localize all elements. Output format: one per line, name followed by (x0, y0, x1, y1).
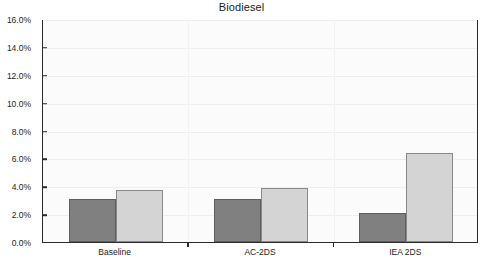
y-axis-tick-mark (42, 75, 47, 77)
bar-iea-2ds-2030 (406, 153, 453, 242)
x-axis-category-label: Baseline (98, 247, 131, 258)
category-separator (188, 20, 189, 242)
y-axis: 0.0%2.0%4.0%6.0%8.0%10.0%12.0%14.0%16.0% (0, 0, 38, 266)
category-separator (334, 20, 335, 242)
bar-chart: Biodiesel 2015 2030 0.0%2.0%4.0%6.0%8.0%… (0, 0, 483, 266)
y-axis-tick-label: 0.0% (12, 238, 31, 248)
plot-area (42, 20, 478, 243)
gridline (43, 20, 477, 21)
y-axis-tick-label: 2.0% (12, 210, 31, 220)
x-axis-category-label: IEA 2DS (389, 247, 421, 258)
gridline (43, 76, 477, 77)
y-axis-tick-label: 14.0% (7, 43, 31, 53)
y-axis-tick-mark (42, 103, 47, 105)
x-axis: BaselineAC-2DSIEA 2DS (42, 247, 478, 263)
y-axis-tick-label: 6.0% (12, 154, 31, 164)
y-axis-tick-mark (42, 159, 47, 161)
bar-ac-2ds-2015 (214, 199, 261, 242)
chart-title: Biodiesel (0, 1, 483, 14)
gridline (43, 104, 477, 105)
bar-ac-2ds-2030 (261, 188, 308, 242)
bar-baseline-2015 (69, 199, 116, 242)
y-axis-tick-mark (42, 131, 47, 133)
y-axis-tick-mark (42, 47, 47, 49)
y-axis-tick-label: 10.0% (7, 99, 31, 109)
x-axis-category-label: AC-2DS (244, 247, 275, 258)
y-axis-tick-mark (42, 186, 47, 188)
x-axis-tick-mark (333, 243, 334, 247)
y-axis-tick-label: 8.0% (12, 127, 31, 137)
y-axis-tick-mark (42, 214, 47, 216)
gridline (43, 48, 477, 49)
bar-baseline-2030 (116, 190, 163, 242)
y-axis-tick-label: 4.0% (12, 182, 31, 192)
x-axis-tick-mark (187, 243, 188, 247)
bar-iea-2ds-2015 (359, 213, 406, 242)
y-axis-tick-label: 12.0% (7, 71, 31, 81)
gridline (43, 132, 477, 133)
y-axis-tick-label: 16.0% (7, 15, 31, 25)
